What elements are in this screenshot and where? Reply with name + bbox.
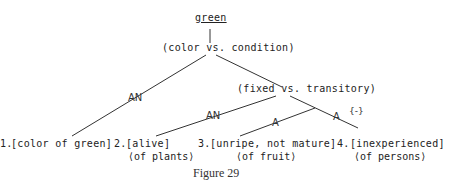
marker-an-1: AN [128,92,142,103]
marker-minus-brace: {-} [349,106,364,116]
marker-a-4: A [333,111,340,122]
leaf-3-context: ⟨of fruit⟩ [236,151,296,162]
leaf-4-number: 4. [337,138,350,149]
node-fixed-vs-transitory: (fixed vs. transitory) [237,83,376,94]
leaf-2-number: 2. [114,138,127,149]
leaf-2-context: ⟨of plants⟩ [128,151,194,162]
leaf-2-sense: [alive] [126,138,170,149]
figure-caption: Figure 29 [193,166,239,181]
leaf-4-sense: [inexperienced] [350,138,445,149]
marker-an-2: AN [206,110,220,121]
leaf-3-number: 3. [198,138,211,149]
leaf-1-sense: [color of green] [11,138,112,149]
leaf-3-sense: [unripe, not mature] [210,138,336,149]
edge-transitory [290,96,358,128]
node-color-vs-condition: (color vs. condition) [162,42,295,53]
leaf-4-context: ⟨of persons⟩ [354,151,426,162]
semantic-tree-diagram: green (color vs. condition) (fixed vs. t… [0,0,449,187]
root-node: green [195,12,227,23]
marker-a-3: A [272,117,279,128]
